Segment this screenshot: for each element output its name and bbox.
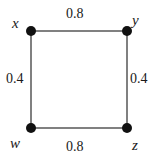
node-label-w: w xyxy=(10,136,20,151)
weighted-graph-diagram: x y w z 0.8 0.4 0.4 0.8 xyxy=(0,0,161,162)
edge-weight-x-y: 0.8 xyxy=(66,7,84,21)
node-label-x: x xyxy=(12,16,19,31)
edge-weight-x-w: 0.4 xyxy=(6,72,24,86)
node-label-y: y xyxy=(132,13,139,28)
node-x xyxy=(26,26,36,36)
edge-weight-y-z: 0.4 xyxy=(130,72,148,86)
node-label-z: z xyxy=(132,138,138,153)
node-y xyxy=(122,26,132,36)
node-z xyxy=(122,123,132,133)
edge-weight-w-z: 0.8 xyxy=(66,140,84,154)
node-w xyxy=(26,123,36,133)
